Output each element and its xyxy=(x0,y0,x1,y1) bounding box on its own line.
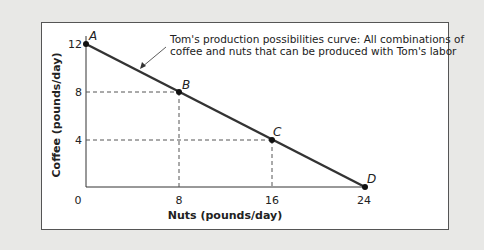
x-axis-label: Nuts (pounds/day) xyxy=(168,209,282,222)
ppc-line xyxy=(86,44,365,187)
x-tick-16: 16 xyxy=(265,194,279,207)
arrow-head-icon xyxy=(140,62,146,69)
y-tick-12: 12 xyxy=(68,38,82,51)
annotation-arrow xyxy=(142,47,166,67)
annotation-line-2: coffee and nuts that can be produced wit… xyxy=(170,45,457,57)
point-b-label: B xyxy=(182,78,190,92)
x-tick-24: 24 xyxy=(357,194,371,207)
point-c-label: C xyxy=(273,125,282,139)
x-tick-0: 0 xyxy=(75,194,82,207)
y-axis-label: Coffee (pounds/day) xyxy=(50,52,63,177)
x-tick-8: 8 xyxy=(176,194,183,207)
annotation-line-1: Tom's production possibilities curve: Al… xyxy=(169,33,464,45)
y-tick-8: 8 xyxy=(75,86,82,99)
y-tick-4: 4 xyxy=(75,134,82,147)
production-possibilities-chart: A B C D 12 8 4 0 8 16 24 Nuts (pounds/da… xyxy=(0,0,484,250)
point-a-label: A xyxy=(88,29,97,43)
point-d-label: D xyxy=(367,172,376,186)
